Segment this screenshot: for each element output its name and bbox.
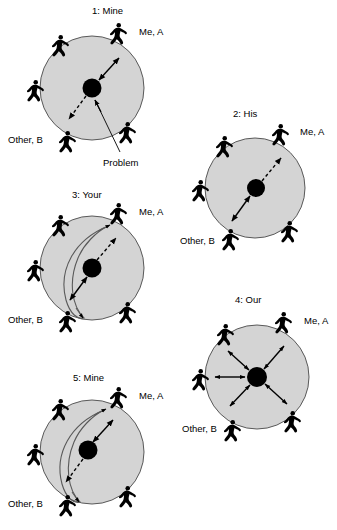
panel-4-label-other: Other, B (182, 423, 217, 434)
panel-5-label-me: Me, A (139, 390, 164, 401)
panel-4-label-me: Me, A (304, 315, 329, 326)
panel-1-label-other: Other, B (8, 134, 43, 145)
panel-3: 3: Your Me, A Other, B (8, 189, 164, 332)
panel-4: 4: Our Me, A Other, B (182, 294, 329, 441)
panel-5-person-me (110, 387, 127, 408)
panel-1-label-problem: Problem (103, 157, 138, 168)
panel-5-problem-dot (79, 441, 98, 460)
panel-3-label-me: Me, A (139, 206, 164, 217)
panel-4-person-me (275, 312, 292, 333)
diagram-canvas: 1: Mine Me, A Other, B Problem 2: His (0, 0, 337, 530)
panel-2-title: 2: His (233, 108, 258, 119)
panel-1-problem-dot (83, 79, 102, 98)
panel-5-label-other: Other, B (8, 498, 43, 509)
panel-3-label-other: Other, B (8, 314, 43, 325)
panel-2-problem-dot (247, 179, 265, 197)
panel-1-title: 1: Mine (92, 5, 123, 16)
panel-4-problem-dot (247, 367, 267, 387)
five-panel-conflict-ownership-diagram: 1: Mine Me, A Other, B Problem 2: His (0, 0, 337, 530)
panel-3-title: 3: Your (72, 189, 102, 200)
panel-2-person-me (272, 124, 289, 145)
panel-1: 1: Mine Me, A Other, B Problem (8, 5, 164, 168)
panel-3-person-me (110, 203, 127, 224)
panel-3-problem-dot (83, 259, 102, 278)
panel-4-title: 4: Our (235, 294, 261, 305)
panel-2-label-other: Other, B (180, 235, 215, 246)
panel-5-title: 5: Mine (73, 372, 104, 383)
panel-5: 5: Mine Me, A Other, B (8, 372, 164, 516)
panel-1-person-me (110, 23, 127, 44)
panel-2: 2: His Me, A Other, B (180, 108, 325, 250)
panel-2-label-me: Me, A (300, 126, 325, 137)
panel-1-label-me: Me, A (139, 26, 164, 37)
